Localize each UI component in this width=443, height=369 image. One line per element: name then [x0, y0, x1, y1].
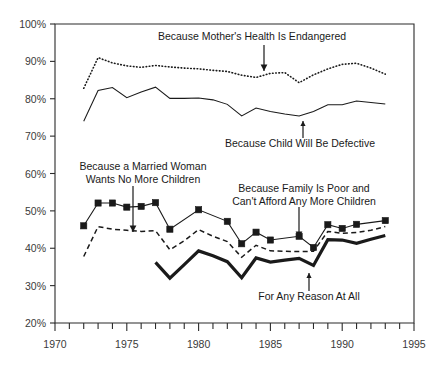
- data-point-marker: [167, 226, 173, 232]
- x-tick-label: 1985: [259, 338, 283, 350]
- x-tick-label: 1995: [402, 338, 426, 350]
- y-tick-label: 70%: [25, 130, 46, 142]
- y-tick-label: 80%: [25, 93, 46, 105]
- data-point-marker: [353, 221, 359, 227]
- y-tick-label: 100%: [19, 18, 46, 30]
- data-point-marker: [382, 217, 388, 223]
- data-point-marker: [138, 203, 144, 209]
- annotation-text: Because Family Is Poor and: [238, 182, 369, 194]
- data-point-marker: [325, 222, 331, 228]
- chart-container: 20%30%40%50%60%70%80%90%100% 19701975198…: [0, 0, 443, 369]
- data-point-marker: [109, 200, 115, 206]
- y-tick-label: 40%: [25, 242, 46, 254]
- annotation-text: Because a Married Woman: [79, 160, 206, 172]
- data-point-marker: [339, 225, 345, 231]
- data-point-marker: [310, 244, 316, 250]
- x-tick-label: 1970: [43, 338, 67, 350]
- chart-background: [0, 0, 443, 369]
- annotation-text: Can't Afford Any More Children: [232, 195, 376, 207]
- data-point-marker: [152, 200, 158, 206]
- x-tick-label: 1975: [115, 338, 139, 350]
- abortion-approval-line-chart: 20%30%40%50%60%70%80%90%100% 19701975198…: [0, 0, 443, 369]
- data-point-marker: [224, 218, 230, 224]
- data-point-marker: [196, 207, 202, 213]
- data-point-marker: [124, 204, 130, 210]
- data-point-marker: [239, 241, 245, 247]
- data-point-marker: [81, 223, 87, 229]
- y-tick-label: 50%: [25, 205, 46, 217]
- y-tick-label: 90%: [25, 55, 46, 67]
- y-tick-label: 30%: [25, 280, 46, 292]
- annotation-text: For Any Reason At All: [258, 290, 360, 302]
- data-point-marker: [95, 200, 101, 206]
- x-tick-label: 1990: [331, 338, 355, 350]
- y-tick-label: 60%: [25, 168, 46, 180]
- annotation-text: Wants No More Children: [86, 173, 201, 185]
- y-tick-label: 20%: [25, 317, 46, 329]
- annotation-text: Because Mother's Health Is Endangered: [158, 30, 346, 42]
- data-point-marker: [253, 229, 259, 235]
- annotation-text: Because Child Will Be Defective: [225, 137, 375, 149]
- x-tick-label: 1980: [187, 338, 211, 350]
- data-point-marker: [267, 237, 273, 243]
